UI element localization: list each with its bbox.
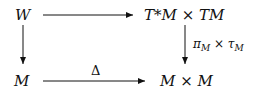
node-cotangent-times-tangent: T*M × TM	[144, 8, 224, 23]
node-tangent: TM	[199, 6, 224, 24]
label-diagonal: Δ	[91, 64, 100, 77]
node-m-times-m: M × M	[160, 74, 213, 89]
pi-subscript: M	[201, 43, 210, 53]
pi-symbol: π	[193, 37, 201, 51]
times-symbol: ×	[182, 6, 195, 24]
label-projection: πM × τM	[193, 38, 244, 53]
node-m: M	[14, 74, 29, 89]
node-cotangent: T*M	[144, 6, 177, 24]
tau-subscript: M	[234, 43, 243, 53]
times-symbol: ×	[180, 72, 193, 89]
node-m-right: M	[198, 72, 213, 89]
times-symbol: ×	[214, 37, 224, 51]
node-m-left: M	[160, 72, 175, 89]
node-w: W	[15, 8, 30, 23]
